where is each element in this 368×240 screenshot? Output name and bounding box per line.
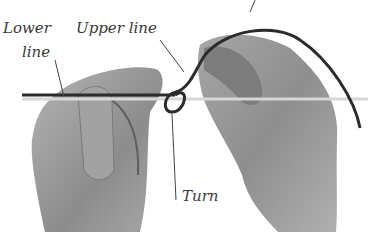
label-lower-line-2: line [22, 44, 50, 60]
knot-illustration: Lower line Upper line Turn [0, 0, 368, 240]
label-upper-line: Upper line [76, 20, 157, 36]
label-turn: Turn [182, 188, 219, 204]
left-hand [32, 67, 163, 232]
label-lower-line-1: Lower [3, 20, 51, 36]
right-hand [198, 35, 337, 232]
